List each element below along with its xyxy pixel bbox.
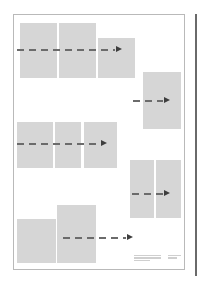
arrow-dash-line xyxy=(133,100,163,102)
arrow-head-icon xyxy=(116,46,122,52)
caption-line xyxy=(168,257,177,258)
caption-right xyxy=(168,255,181,260)
arrow-dash-line xyxy=(63,237,126,239)
arrow-dash-line xyxy=(132,193,163,195)
dashed-arrow-icon xyxy=(132,190,170,197)
caption-left xyxy=(134,255,161,262)
dashed-arrow-icon xyxy=(17,140,107,147)
storyboard-panel xyxy=(156,160,181,218)
dashed-arrow-icon xyxy=(17,46,122,53)
arrow-dash-line xyxy=(17,49,115,51)
storyboard-panel xyxy=(130,160,154,218)
caption-line xyxy=(168,255,181,256)
caption-line xyxy=(134,260,150,261)
arrow-head-icon xyxy=(127,234,133,240)
arrow-head-icon xyxy=(101,140,107,146)
dashed-arrow-icon xyxy=(133,97,170,104)
arrow-head-icon xyxy=(164,97,170,103)
caption-line xyxy=(134,257,161,258)
page-edge-line xyxy=(195,14,197,276)
arrow-head-icon xyxy=(164,190,170,196)
arrow-dash-line xyxy=(17,143,100,145)
storyboard-panel xyxy=(98,38,135,78)
storyboard-panel xyxy=(17,219,56,263)
dashed-arrow-icon xyxy=(63,234,133,241)
caption-line xyxy=(134,255,161,256)
